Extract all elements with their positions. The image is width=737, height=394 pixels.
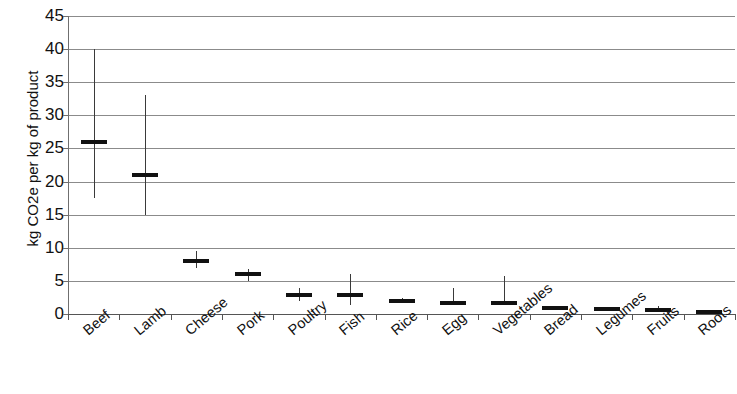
y-tick-label: 40 [34,40,64,57]
x-tick-label: Cheese [182,294,231,338]
x-tick-mark [171,314,172,320]
x-tick-mark [119,314,120,320]
x-tick-mark [222,314,223,320]
value-marker [542,306,568,310]
value-marker [286,293,312,297]
x-tick-mark [478,314,479,320]
y-tick-label: 45 [34,7,64,24]
y-tick-mark [63,49,68,50]
value-marker [235,272,261,276]
y-tick-label: 20 [34,173,64,190]
y-tick-label: 5 [34,272,64,289]
y-tick-label: 35 [34,73,64,90]
x-tick-mark [376,314,377,320]
y-tick-label: 10 [34,239,64,256]
x-tick-mark [581,314,582,320]
x-tick-mark [325,314,326,320]
y-tick-mark [63,215,68,216]
value-marker [440,301,466,305]
value-marker [645,308,671,312]
x-tick-label: Lamb [131,303,169,339]
emissions-range-chart: kg CO2e per kg of product 05101520253035… [0,0,737,394]
x-tick-label: Fish [336,308,367,338]
x-tick-label: Rice [388,307,421,338]
x-tick-label: Pork [234,307,267,338]
value-marker [594,307,620,311]
x-tick-label: Legumes [593,288,649,339]
value-marker [132,173,158,177]
range-line [145,95,146,214]
x-tick-label: Poultry [285,297,330,338]
range-line [350,274,351,305]
x-tick-mark [427,314,428,320]
value-marker [696,310,722,314]
value-marker [491,301,517,305]
range-line [94,49,95,198]
gridline [68,215,735,216]
value-marker [389,299,415,303]
gridline [68,49,735,50]
gridline [68,82,735,83]
y-tick-label: 25 [34,139,64,156]
gridline [68,182,735,183]
y-tick-label: 0 [34,305,64,322]
y-tick-mark [63,248,68,249]
x-tick-mark [68,314,69,320]
x-axis-tick-labels: BeefLambCheesePorkPoultryFishRiceEggVege… [0,0,737,394]
y-tick-label: 30 [34,106,64,123]
value-marker [183,259,209,263]
y-tick-mark [63,281,68,282]
y-axis-tick-labels: 051015202530354045 [30,0,64,330]
x-tick-mark [735,314,736,320]
y-tick-mark [63,115,68,116]
value-marker [337,293,363,297]
gridline [68,281,735,282]
gridline [68,148,735,149]
gridline [68,248,735,249]
y-tick-mark [63,182,68,183]
gridline [68,16,735,17]
x-tick-mark [273,314,274,320]
y-tick-mark [63,82,68,83]
value-marker [81,140,107,144]
x-tick-mark [684,314,685,320]
x-tick-mark [530,314,531,320]
gridline [68,115,735,116]
x-tick-label: Beef [80,307,113,338]
y-tick-mark [63,148,68,149]
x-tick-mark [632,314,633,320]
x-tick-label: Roots [695,302,734,339]
y-axis-line [68,16,69,314]
y-tick-label: 15 [34,206,64,223]
y-tick-mark [63,16,68,17]
